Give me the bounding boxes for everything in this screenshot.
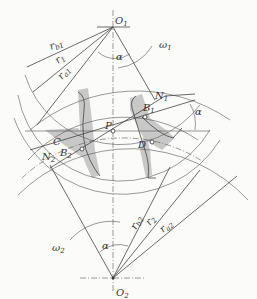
label-rb1: rb1 xyxy=(48,37,66,54)
alpha-arc-top xyxy=(98,52,130,59)
point-b1 xyxy=(143,115,147,119)
label-alpha-top: α xyxy=(116,51,123,62)
label-r1: r1 xyxy=(52,51,67,67)
point-d xyxy=(150,140,154,144)
point-o2 xyxy=(112,277,115,280)
label-n1: N1 xyxy=(154,90,168,103)
label-o2: O2 xyxy=(116,287,129,299)
label-omega1: ω1 xyxy=(159,39,172,52)
label-rb2: rb2 xyxy=(128,213,146,232)
label-c: C xyxy=(53,136,61,147)
point-b2 xyxy=(80,147,84,151)
label-alpha-bottom: α xyxy=(102,240,109,251)
omega2-arrow xyxy=(70,221,120,240)
label-omega2: ω2 xyxy=(52,242,65,255)
label-p: P xyxy=(104,120,112,131)
label-d: D xyxy=(137,139,146,150)
label-n2: N2 xyxy=(41,151,56,164)
label-o1: O1 xyxy=(115,15,128,28)
gear-mesh-diagram: O1 O2 P N1 N2 B1 B2 C D rb1 r1 ra1 rb2 r… xyxy=(0,0,257,299)
label-alpha-right: α xyxy=(195,106,202,117)
